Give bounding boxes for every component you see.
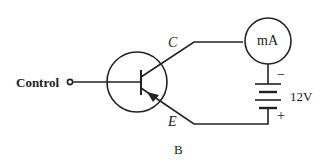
- collector-label: C: [168, 36, 177, 50]
- battery-negative-label: −: [277, 68, 285, 82]
- caption: B: [174, 143, 183, 156]
- control-label: Control: [16, 76, 59, 89]
- ammeter-label: mA: [257, 34, 278, 48]
- emitter-wire: [141, 88, 268, 124]
- battery-positive-label: +: [277, 109, 285, 123]
- control-terminal: [67, 79, 72, 84]
- emitter-label: E: [168, 115, 177, 129]
- battery-voltage-label: 12V: [290, 90, 312, 103]
- emitter-arrow-icon: [147, 92, 159, 102]
